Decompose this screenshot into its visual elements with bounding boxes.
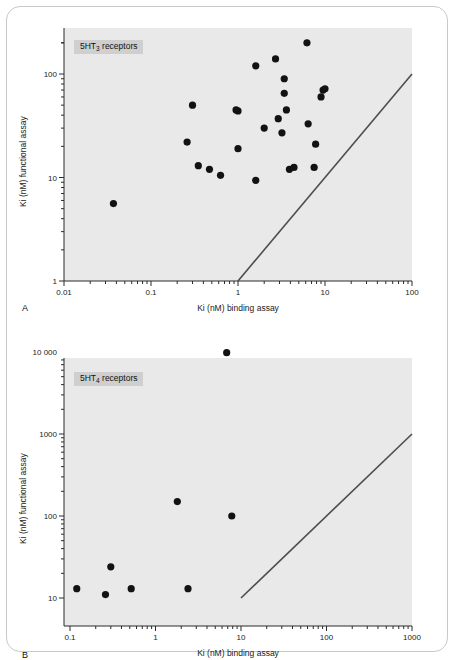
data-point	[272, 55, 279, 62]
y-tick-label: 1000	[39, 430, 57, 439]
panel-b: 5HT4 receptors Ki (nM) binding assay Ki …	[0, 330, 456, 660]
data-point	[305, 120, 312, 127]
data-point	[303, 39, 310, 46]
data-point	[189, 102, 196, 109]
y-tick-label: 1	[53, 277, 57, 286]
data-point	[184, 138, 191, 145]
y-tick-label: 100	[44, 512, 57, 521]
panel-letter-b: B	[22, 650, 28, 660]
y-axis-label-a: Ki (nM) functional assay	[18, 116, 28, 207]
data-point	[321, 85, 328, 92]
panel-letter-a: A	[22, 303, 28, 313]
x-tick-label: 100	[405, 288, 418, 297]
data-point	[317, 93, 324, 100]
data-point	[275, 115, 282, 122]
data-point	[281, 75, 288, 82]
data-point	[102, 591, 109, 598]
data-point	[128, 585, 135, 592]
data-point	[195, 162, 202, 169]
y-tick-label: 100	[44, 70, 57, 79]
x-tick-label: 1	[153, 633, 157, 642]
y-tick-label: 10	[48, 594, 57, 603]
data-point	[283, 106, 290, 113]
data-point	[312, 141, 319, 148]
x-tick-label: 1	[236, 288, 240, 297]
x-tick-label: 10	[321, 288, 330, 297]
scatter-svg-b	[0, 330, 456, 660]
x-axis-label-b: Ki (nM) binding assay	[64, 648, 412, 658]
data-point	[252, 177, 259, 184]
y-tick-label: 10 000	[33, 348, 57, 357]
legend-label-b: 5HT4 receptors	[74, 372, 143, 386]
data-point	[290, 164, 297, 171]
data-point	[278, 129, 285, 136]
data-point	[184, 585, 191, 592]
data-point	[206, 166, 213, 173]
data-point	[228, 512, 235, 519]
y-axis-label-b: Ki (nM) functional assay	[18, 453, 28, 544]
x-tick-label: 10	[237, 633, 246, 642]
x-tick-label: 0.1	[145, 288, 156, 297]
x-tick-label: 100	[320, 633, 333, 642]
legend-label-a: 5HT3 receptors	[74, 40, 143, 54]
data-point	[107, 563, 114, 570]
data-point	[281, 90, 288, 97]
data-point	[234, 145, 241, 152]
data-point	[252, 62, 259, 69]
x-tick-label: 0.1	[64, 633, 75, 642]
panel-a: 5HT3 receptors Ki (nM) binding assay Ki …	[0, 0, 456, 330]
data-point	[174, 498, 181, 505]
x-tick-label: 1000	[403, 633, 421, 642]
y-tick-label: 10	[48, 173, 57, 182]
data-point	[223, 349, 230, 356]
data-point	[217, 172, 224, 179]
x-axis-label-a: Ki (nM) binding assay	[64, 303, 412, 313]
data-point	[110, 200, 117, 207]
x-tick-label: 0.01	[56, 288, 72, 297]
data-point	[234, 107, 241, 114]
data-point	[73, 585, 80, 592]
data-point	[311, 164, 318, 171]
data-point	[261, 125, 268, 132]
scatter-svg-a	[0, 0, 456, 330]
